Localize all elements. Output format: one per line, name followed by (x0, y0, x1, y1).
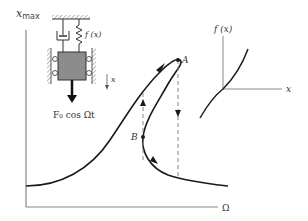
point-a-label: A (181, 55, 189, 65)
response-curve (26, 60, 228, 186)
y-axis-label: xmax (16, 7, 40, 21)
stiffness-curve (200, 49, 248, 118)
spring-icon (76, 19, 82, 52)
ceiling-hatch (52, 15, 90, 19)
stiffness-y-axis-label: f (x) (213, 24, 233, 34)
jump-down-arrow-icon (175, 110, 181, 117)
point-b-label: B (130, 132, 138, 142)
right-wall (92, 48, 96, 84)
left-wall (47, 48, 51, 84)
displacement-label: x (111, 75, 116, 84)
stiffness-inset: f (x) x (200, 24, 291, 118)
stiffness-x-axis-label: x (286, 84, 291, 94)
point-a (176, 58, 180, 62)
jump-lines (140, 60, 181, 176)
x-axis-label: Ω (222, 203, 229, 213)
force-label: F₀ cos Ωt (53, 110, 95, 120)
point-b (141, 135, 145, 139)
spring-label: f (x) (84, 30, 101, 39)
jump-curve (26, 60, 228, 186)
mass-block (58, 52, 86, 80)
frequency-response-diagram: xmax Ω A B f (x) (0, 0, 308, 221)
mass-spring-damper-inset: f (x) x F₀ cos Ωt (47, 15, 116, 120)
jump-up-arrow-icon (140, 99, 146, 106)
